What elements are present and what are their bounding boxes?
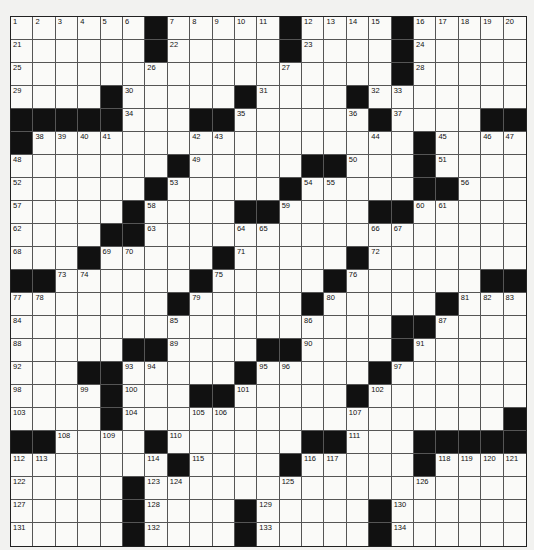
grid-cell[interactable]: [145, 408, 167, 431]
grid-cell[interactable]: [324, 201, 346, 224]
grid-cell[interactable]: [213, 86, 235, 109]
grid-cell[interactable]: [257, 40, 279, 63]
grid-cell[interactable]: [56, 63, 78, 86]
grid-cell[interactable]: 109: [101, 431, 123, 454]
grid-cell[interactable]: [235, 270, 257, 293]
grid-cell[interactable]: [56, 500, 78, 523]
grid-cell[interactable]: [302, 201, 324, 224]
grid-cell[interactable]: [436, 247, 458, 270]
grid-cell[interactable]: [436, 500, 458, 523]
grid-cell[interactable]: [190, 247, 212, 270]
grid-cell[interactable]: [504, 201, 526, 224]
grid-cell[interactable]: [33, 201, 55, 224]
grid-cell[interactable]: [145, 132, 167, 155]
grid-cell[interactable]: [56, 316, 78, 339]
grid-cell[interactable]: [369, 155, 391, 178]
grid-cell[interactable]: [145, 247, 167, 270]
grid-cell[interactable]: [213, 201, 235, 224]
grid-cell[interactable]: 12: [302, 17, 324, 40]
grid-cell[interactable]: [302, 63, 324, 86]
grid-cell[interactable]: [459, 63, 481, 86]
grid-cell[interactable]: 75: [213, 270, 235, 293]
grid-cell[interactable]: [459, 155, 481, 178]
grid-cell[interactable]: 108: [56, 431, 78, 454]
grid-cell[interactable]: [302, 109, 324, 132]
grid-cell[interactable]: [324, 408, 346, 431]
grid-cell[interactable]: [324, 86, 346, 109]
grid-cell[interactable]: 115: [190, 454, 212, 477]
grid-cell[interactable]: [33, 224, 55, 247]
grid-cell[interactable]: 111: [347, 431, 369, 454]
grid-cell[interactable]: [436, 385, 458, 408]
grid-cell[interactable]: 38: [33, 132, 55, 155]
grid-cell[interactable]: [257, 63, 279, 86]
grid-cell[interactable]: [78, 523, 100, 546]
grid-cell[interactable]: [145, 270, 167, 293]
grid-cell[interactable]: [123, 178, 145, 201]
grid-cell[interactable]: 21: [11, 40, 33, 63]
grid-cell[interactable]: 37: [392, 109, 414, 132]
grid-cell[interactable]: 85: [168, 316, 190, 339]
grid-cell[interactable]: [280, 408, 302, 431]
grid-cell[interactable]: [257, 293, 279, 316]
grid-cell[interactable]: [302, 523, 324, 546]
grid-cell[interactable]: [56, 408, 78, 431]
grid-cell[interactable]: [481, 408, 503, 431]
grid-cell[interactable]: 92: [11, 362, 33, 385]
grid-cell[interactable]: 43: [213, 132, 235, 155]
grid-cell[interactable]: [324, 224, 346, 247]
grid-cell[interactable]: [78, 454, 100, 477]
grid-cell[interactable]: [56, 454, 78, 477]
grid-cell[interactable]: 118: [436, 454, 458, 477]
grid-cell[interactable]: [347, 201, 369, 224]
grid-cell[interactable]: 34: [123, 109, 145, 132]
grid-cell[interactable]: [257, 178, 279, 201]
grid-cell[interactable]: [392, 385, 414, 408]
grid-cell[interactable]: 9: [213, 17, 235, 40]
grid-cell[interactable]: [481, 63, 503, 86]
grid-cell[interactable]: [504, 500, 526, 523]
grid-cell[interactable]: [459, 86, 481, 109]
grid-cell[interactable]: [56, 155, 78, 178]
grid-cell[interactable]: [504, 178, 526, 201]
grid-cell[interactable]: [414, 500, 436, 523]
grid-cell[interactable]: 88: [11, 339, 33, 362]
grid-cell[interactable]: [145, 385, 167, 408]
grid-cell[interactable]: [235, 178, 257, 201]
grid-cell[interactable]: 60: [414, 201, 436, 224]
grid-cell[interactable]: 45: [436, 132, 458, 155]
grid-cell[interactable]: 52: [11, 178, 33, 201]
grid-cell[interactable]: [101, 316, 123, 339]
grid-cell[interactable]: [257, 247, 279, 270]
grid-cell[interactable]: [459, 385, 481, 408]
grid-cell[interactable]: [145, 155, 167, 178]
grid-cell[interactable]: [33, 362, 55, 385]
grid-cell[interactable]: [56, 201, 78, 224]
grid-cell[interactable]: 29: [11, 86, 33, 109]
grid-cell[interactable]: [56, 293, 78, 316]
grid-cell[interactable]: [302, 385, 324, 408]
grid-cell[interactable]: [347, 477, 369, 500]
grid-cell[interactable]: 41: [101, 132, 123, 155]
grid-cell[interactable]: [369, 408, 391, 431]
grid-cell[interactable]: [504, 523, 526, 546]
grid-cell[interactable]: 28: [414, 63, 436, 86]
grid-cell[interactable]: [481, 339, 503, 362]
grid-cell[interactable]: [56, 178, 78, 201]
grid-cell[interactable]: [347, 454, 369, 477]
grid-cell[interactable]: [213, 155, 235, 178]
grid-cell[interactable]: [33, 408, 55, 431]
grid-cell[interactable]: 89: [168, 339, 190, 362]
grid-cell[interactable]: 1: [11, 17, 33, 40]
grid-cell[interactable]: [414, 86, 436, 109]
grid-cell[interactable]: [369, 270, 391, 293]
grid-cell[interactable]: [213, 454, 235, 477]
grid-cell[interactable]: 25: [11, 63, 33, 86]
grid-cell[interactable]: [56, 362, 78, 385]
grid-cell[interactable]: [302, 224, 324, 247]
grid-cell[interactable]: [123, 40, 145, 63]
grid-cell[interactable]: [280, 247, 302, 270]
grid-cell[interactable]: 81: [459, 293, 481, 316]
grid-cell[interactable]: [459, 477, 481, 500]
grid-cell[interactable]: [213, 500, 235, 523]
